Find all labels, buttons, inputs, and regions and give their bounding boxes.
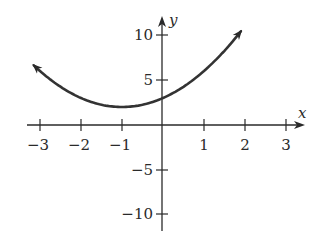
x-tick-label: −3 xyxy=(27,136,49,154)
x-tick-label: 3 xyxy=(281,136,291,154)
x-tick-label: −1 xyxy=(109,136,131,154)
x-axis-label: x xyxy=(298,104,307,122)
x-tick-label: 1 xyxy=(199,136,209,154)
y-tick-label: 5 xyxy=(143,71,153,89)
y-axis-label: y xyxy=(168,11,178,29)
x-tick-label: −2 xyxy=(68,136,90,154)
parabola-graph: −3 −2 −1 1 2 3 10 5 −5 −10 x y xyxy=(0,0,317,243)
x-tick-label: 2 xyxy=(240,136,250,154)
y-tick-label: −5 xyxy=(131,161,153,179)
y-tick-label: −10 xyxy=(121,205,153,223)
y-tick-label: 10 xyxy=(134,26,153,44)
